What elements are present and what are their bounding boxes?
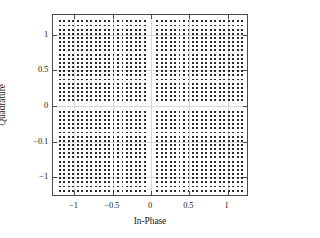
constellation-point <box>228 119 230 121</box>
constellation-point <box>210 111 212 113</box>
constellation-point <box>237 144 239 146</box>
constellation-point <box>117 25 119 27</box>
constellation-point <box>241 49 243 51</box>
constellation-point <box>81 29 83 31</box>
constellation-point <box>170 29 172 31</box>
constellation-point <box>63 111 65 113</box>
constellation-point <box>63 87 65 89</box>
constellation-point <box>228 152 230 154</box>
x-axis-title: In-Phase <box>52 216 248 226</box>
constellation-point <box>241 83 243 85</box>
constellation-point <box>232 165 234 167</box>
constellation-point <box>192 33 194 35</box>
constellation-point <box>179 95 181 97</box>
constellation-point <box>95 123 97 125</box>
constellation-point <box>72 127 74 129</box>
constellation-point <box>59 148 61 150</box>
constellation-point <box>144 111 146 113</box>
constellation-point <box>135 165 137 167</box>
constellation-point <box>232 58 234 60</box>
constellation-point <box>122 152 124 154</box>
constellation-point <box>156 181 158 183</box>
constellation-point <box>201 37 203 39</box>
constellation-point <box>205 136 207 138</box>
constellation-point <box>205 70 207 72</box>
constellation-point <box>122 49 124 51</box>
constellation-point <box>63 41 65 43</box>
constellation-point <box>196 190 198 192</box>
constellation-point <box>122 165 124 167</box>
constellation-point <box>174 177 176 179</box>
constellation-point <box>174 29 176 31</box>
constellation-point <box>86 190 88 192</box>
constellation-point <box>86 169 88 171</box>
constellation-point <box>77 54 79 56</box>
constellation-point <box>165 136 167 138</box>
constellation-point <box>122 87 124 89</box>
constellation-point <box>68 99 70 101</box>
constellation-point <box>237 37 239 39</box>
constellation-point <box>170 41 172 43</box>
constellation-point <box>144 66 146 68</box>
constellation-point <box>165 161 167 163</box>
constellation-point <box>86 91 88 93</box>
constellation-point <box>192 165 194 167</box>
constellation-point <box>135 91 137 93</box>
constellation-point <box>232 87 234 89</box>
constellation-point <box>188 83 190 85</box>
constellation-point <box>161 54 163 56</box>
constellation-point <box>126 181 128 183</box>
constellation-point <box>81 186 83 188</box>
constellation-point <box>192 79 194 81</box>
constellation-point <box>156 83 158 85</box>
constellation-point <box>223 169 225 171</box>
constellation-point <box>72 74 74 76</box>
constellation-point <box>59 91 61 93</box>
constellation-point <box>68 37 70 39</box>
constellation-point <box>161 45 163 47</box>
constellation-point <box>237 169 239 171</box>
constellation-point <box>104 132 106 134</box>
constellation-point <box>183 79 185 81</box>
constellation-point <box>117 45 119 47</box>
constellation-point <box>90 140 92 142</box>
constellation-point <box>161 20 163 22</box>
constellation-point <box>165 70 167 72</box>
constellation-point <box>117 83 119 85</box>
constellation-point <box>196 127 198 129</box>
constellation-point <box>241 165 243 167</box>
constellation-point <box>210 165 212 167</box>
constellation-point <box>104 127 106 129</box>
constellation-point <box>95 70 97 72</box>
constellation-point <box>241 66 243 68</box>
constellation-point <box>113 95 115 97</box>
constellation-point <box>99 49 101 51</box>
constellation-point <box>228 140 230 142</box>
constellation-point <box>59 161 61 163</box>
constellation-point <box>126 127 128 129</box>
constellation-point <box>63 173 65 175</box>
constellation-point <box>241 177 243 179</box>
constellation-point <box>179 190 181 192</box>
constellation-point <box>205 173 207 175</box>
constellation-point <box>108 136 110 138</box>
constellation-point <box>104 62 106 64</box>
constellation-point <box>201 83 203 85</box>
constellation-point <box>192 144 194 146</box>
constellation-point <box>219 181 221 183</box>
constellation-point <box>68 29 70 31</box>
constellation-point <box>130 161 132 163</box>
constellation-point <box>113 91 115 93</box>
constellation-point <box>86 144 88 146</box>
constellation-point <box>228 111 230 113</box>
constellation-point <box>86 136 88 138</box>
constellation-point <box>99 79 101 81</box>
constellation-point <box>113 29 115 31</box>
constellation-point <box>86 79 88 81</box>
constellation-point <box>214 29 216 31</box>
constellation-point <box>117 62 119 64</box>
constellation-point <box>86 161 88 163</box>
constellation-point <box>90 177 92 179</box>
constellation-point <box>205 181 207 183</box>
constellation-point <box>130 148 132 150</box>
